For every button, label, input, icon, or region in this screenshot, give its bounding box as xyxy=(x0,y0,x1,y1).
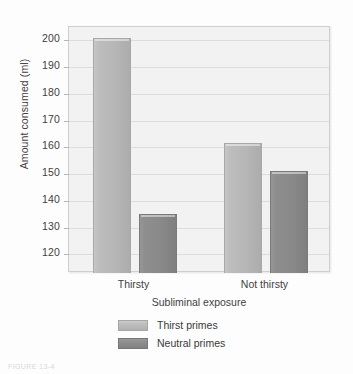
y-axis-tick-label: 140 xyxy=(4,193,60,205)
legend-swatch-icon xyxy=(118,338,148,349)
y-axis-tick-label: 150 xyxy=(4,166,60,178)
x-axis-category-label: Not thirsty xyxy=(215,278,315,290)
y-axis-tick-label: 190 xyxy=(4,59,60,71)
plot-area xyxy=(68,26,330,272)
bar-thirst-primes-thirsty xyxy=(93,38,131,273)
bar-thirst-primes-not-thirsty xyxy=(224,143,262,273)
y-axis-tick-mark xyxy=(64,67,69,68)
y-axis-tick-label: 180 xyxy=(4,86,60,98)
x-axis-title: Subliminal exposure xyxy=(68,296,330,308)
y-axis-tick-label: 130 xyxy=(4,220,60,232)
y-axis-tick-mark xyxy=(64,174,69,175)
x-axis-category-label: Thirsty xyxy=(84,278,184,290)
bar-neutral-primes-thirsty xyxy=(139,214,177,273)
chart-legend: Thirst primesNeutral primes xyxy=(68,316,330,352)
y-axis-tick-label: 200 xyxy=(4,32,60,44)
legend-item: Thirst primes xyxy=(68,316,330,334)
legend-label: Neutral primes xyxy=(157,337,225,349)
y-axis-tick-label: 120 xyxy=(4,246,60,258)
legend-swatch-icon xyxy=(118,320,148,331)
bar-neutral-primes-not-thirsty xyxy=(270,171,308,273)
y-axis-tick-mark xyxy=(64,94,69,95)
y-axis-tick-mark xyxy=(64,254,69,255)
y-axis-tick-labels: 120130140150160170180190200 xyxy=(0,26,60,272)
legend-item: Neutral primes xyxy=(68,334,330,352)
y-axis-tick-label: 160 xyxy=(4,139,60,151)
y-axis-tick-mark xyxy=(64,40,69,41)
legend-label: Thirst primes xyxy=(157,319,218,331)
figure-caption: FIGURE 13-4 xyxy=(8,363,98,372)
y-axis-tick-mark xyxy=(64,201,69,202)
y-axis-tick-mark xyxy=(64,121,69,122)
y-axis-tick-label: 170 xyxy=(4,113,60,125)
y-axis-tick-mark xyxy=(64,228,69,229)
y-axis-tick-mark xyxy=(64,147,69,148)
figure-container: Amount consumed (ml) 1201301401501601701… xyxy=(0,0,353,374)
